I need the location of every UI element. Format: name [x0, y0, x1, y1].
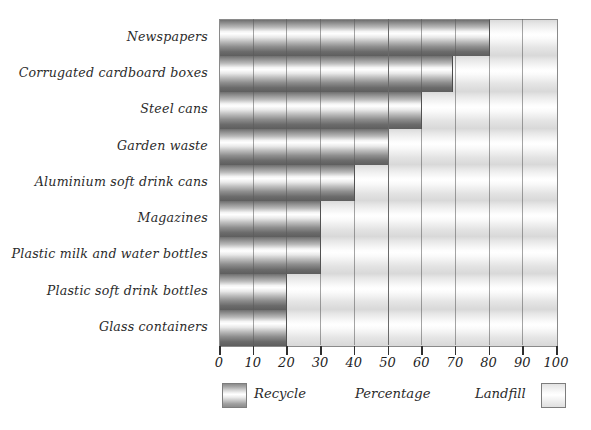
category-label: Glass containers — [99, 309, 208, 345]
category-label: Steel cans — [140, 91, 208, 127]
x-axis-tick-label: 90 — [514, 355, 531, 370]
bar-segment-recycle — [220, 310, 287, 346]
bar-segment-recycle — [220, 274, 287, 310]
bar-segment-recycle — [220, 129, 389, 165]
bar-segment-recycle — [220, 165, 355, 201]
category-label: Newspapers — [127, 19, 208, 55]
x-axis-tick-label: 20 — [278, 355, 295, 370]
category-label: Plastic milk and water bottles — [12, 236, 208, 272]
x-axis-tick-label: 10 — [244, 355, 261, 370]
bar-segment-landfill — [287, 310, 557, 346]
x-axis: 0102030405060708090100 — [219, 346, 556, 372]
legend-swatch-landfill — [541, 383, 566, 408]
x-axis-tick-label: 80 — [480, 355, 497, 370]
bar-row — [220, 129, 557, 165]
x-axis-tick — [219, 346, 221, 355]
x-axis-tick — [489, 346, 491, 355]
bar-row — [220, 92, 557, 128]
bar-segment-landfill — [490, 20, 557, 56]
legend-swatch-recycle — [222, 383, 247, 408]
chart-legend: Recycle Percentage Landfill — [0, 381, 591, 415]
x-axis-tick — [388, 346, 390, 355]
x-axis-tick-label: 50 — [379, 355, 396, 370]
x-axis-title: Percentage — [355, 386, 430, 401]
x-axis-tick-label: 0 — [215, 355, 223, 370]
bar-segment-landfill — [422, 92, 557, 128]
x-axis-tick — [522, 346, 524, 355]
bar-row — [220, 201, 557, 237]
bar-segment-landfill — [321, 237, 557, 273]
x-axis-tick-label: 70 — [447, 355, 464, 370]
bar-row — [220, 20, 557, 56]
legend-label-recycle: Recycle — [254, 386, 306, 401]
x-axis-tick — [253, 346, 255, 355]
stacked-bar-chart: NewspapersCorrugated cardboard boxesStee… — [0, 0, 591, 430]
x-axis-tick — [320, 346, 322, 355]
bar-segment-landfill — [453, 56, 557, 92]
category-label: Magazines — [138, 200, 208, 236]
bar-segment-recycle — [220, 20, 490, 56]
bar-segment-recycle — [220, 237, 321, 273]
bar-row — [220, 310, 557, 346]
plot-area — [219, 19, 558, 347]
x-axis-tick-label: 40 — [346, 355, 363, 370]
bar-segment-recycle — [220, 92, 422, 128]
bar-row — [220, 165, 557, 201]
bar-row — [220, 56, 557, 92]
bar-segment-recycle — [220, 56, 453, 92]
bar-segment-landfill — [287, 274, 557, 310]
x-axis-tick — [421, 346, 423, 355]
x-axis-tick — [354, 346, 356, 355]
category-label: Corrugated cardboard boxes — [19, 55, 208, 91]
bar-row — [220, 237, 557, 273]
x-axis-tick — [556, 346, 558, 355]
bar-segment-landfill — [355, 165, 557, 201]
bar-segment-landfill — [321, 201, 557, 237]
x-axis-tick — [455, 346, 457, 355]
bar-row — [220, 274, 557, 310]
x-axis-tick-label: 100 — [544, 355, 569, 370]
category-label: Plastic soft drink bottles — [47, 273, 208, 309]
category-label: Aluminium soft drink cans — [35, 164, 208, 200]
category-axis-labels: NewspapersCorrugated cardboard boxesStee… — [0, 19, 214, 345]
x-axis-tick-label: 60 — [413, 355, 430, 370]
x-axis-tick-label: 30 — [312, 355, 329, 370]
bar-segment-landfill — [389, 129, 558, 165]
legend-label-landfill: Landfill — [475, 386, 526, 401]
category-label: Garden waste — [117, 128, 208, 164]
bar-segment-recycle — [220, 201, 321, 237]
x-axis-tick — [286, 346, 288, 355]
